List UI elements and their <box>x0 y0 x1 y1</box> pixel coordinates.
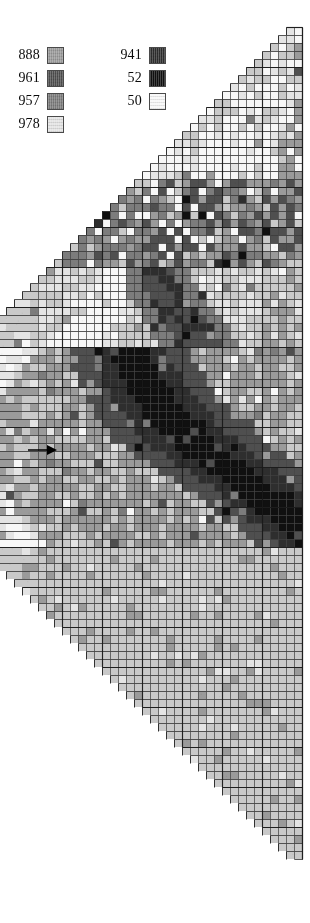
legend-swatch-888 <box>47 47 64 64</box>
legend-label: 941 <box>120 48 149 62</box>
legend-label: 978 <box>18 117 47 131</box>
legend-swatch-957 <box>47 93 64 110</box>
legend-swatch-50 <box>149 93 166 110</box>
legend-item: 978 <box>2 113 64 135</box>
legend-label: 961 <box>18 71 47 85</box>
legend-column-left: 888 961 957 978 <box>2 44 64 136</box>
legend-item: 941 <box>100 44 166 66</box>
legend-label: 957 <box>18 94 47 108</box>
legend-label: 50 <box>128 94 149 108</box>
legend: 888 961 957 978 941 52 50 <box>0 44 185 139</box>
legend-label: 888 <box>18 48 47 62</box>
legend-item: 961 <box>2 67 64 89</box>
row-pointer-arrow <box>28 443 58 457</box>
legend-swatch-52 <box>149 70 166 87</box>
legend-label: 52 <box>128 71 149 85</box>
legend-item: 957 <box>2 90 64 112</box>
legend-swatch-961 <box>47 70 64 87</box>
legend-item: 888 <box>2 44 64 66</box>
legend-swatch-978 <box>47 116 64 133</box>
legend-swatch-941 <box>149 47 166 64</box>
legend-column-right: 941 52 50 <box>100 44 166 113</box>
arrow-right-icon <box>28 443 58 457</box>
legend-item: 50 <box>100 90 166 112</box>
legend-item: 52 <box>100 67 166 89</box>
